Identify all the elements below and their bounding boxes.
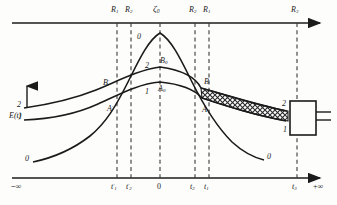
curve-0-left-label: 0 <box>25 155 29 163</box>
curve-0-inner-label: 0 <box>137 33 141 41</box>
figure-vector-layer <box>0 0 337 205</box>
axis-end-plus-infinity: +∞ <box>313 183 323 191</box>
figure-canvas: R1 R2 ζ0 R2 R1 R3 t′1 t′2 0 t2 t1 t3 −∞ … <box>0 0 337 205</box>
curve-0-right-label: 0 <box>267 153 271 161</box>
axis-end-minus-infinity: −∞ <box>11 183 21 191</box>
bottom-tick-t2-prime: t′2 <box>126 183 132 192</box>
curve-2-inner-label: 2 <box>145 62 149 70</box>
top-tick-R1-left: R1 <box>111 6 118 15</box>
hatched-band <box>201 88 288 121</box>
point-label-B: B <box>204 78 209 86</box>
curve-1-inner-label: 1 <box>145 88 149 96</box>
point-label-B-prime: B′ <box>103 79 109 87</box>
bottom-tick-t2: t2 <box>190 183 195 192</box>
bottom-tick-t1: t1 <box>204 183 209 192</box>
top-tick-R2-left: R2 <box>125 6 132 15</box>
point-label-A-prime: A′ <box>107 105 113 113</box>
curve-1-left-label: 1 <box>18 113 22 121</box>
curve-2-right-label: 2 <box>282 100 286 108</box>
top-tick-C0: ζ0 <box>153 5 159 15</box>
point-label-A: A <box>202 106 207 114</box>
top-tick-R1-right: R1 <box>203 6 210 15</box>
top-tick-R2-right: R2 <box>189 6 196 15</box>
point-label-A0: A0 <box>158 85 165 94</box>
detector-box <box>290 101 331 135</box>
bottom-tick-t3: t3 <box>292 183 297 192</box>
point-label-B0: B0 <box>160 57 167 66</box>
curve-1-right-label: 1 <box>283 126 287 134</box>
bottom-tick-origin: 0 <box>157 183 161 191</box>
top-tick-R3: R3 <box>291 6 298 15</box>
curve-2-left-label: 2 <box>17 101 21 109</box>
bottom-tick-t1-prime: t′1 <box>111 183 117 192</box>
